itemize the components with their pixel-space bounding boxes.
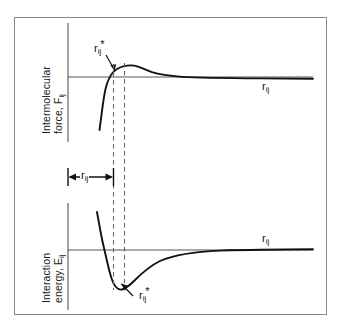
bottom-annotation-star: *: [145, 285, 149, 297]
bottom-plot-y-axis-label: Interaction energy, Eij: [41, 253, 67, 303]
top-plot-x-axis-label: rij: [262, 80, 269, 94]
top-y-label-line1: Intermolecular: [40, 66, 52, 134]
top-annotation-star: *: [100, 38, 104, 50]
bottom-plot-equilibrium-annotation: rij*: [139, 285, 150, 303]
separation-measure-arrow: [68, 168, 114, 186]
top-y-label-subscript: ij: [56, 94, 65, 97]
bottom-plot-group: [68, 203, 313, 310]
separation-measure-label: rij: [80, 169, 89, 183]
figure-container: Intermolecular force, Fij Interaction en…: [0, 0, 339, 333]
force-curve: [100, 65, 314, 130]
top-y-label-line2: force, F: [52, 98, 64, 134]
bottom-y-label-line2: energy, E: [52, 258, 64, 303]
top-x-label-subscript: ij: [266, 85, 270, 94]
top-plot-y-axis-label: Intermolecular force, Fij: [41, 66, 67, 134]
bottom-y-label-line1: Interaction: [40, 253, 52, 303]
bottom-plot-x-axis-label: rij: [262, 232, 269, 246]
force-annotation-arrow: [106, 55, 116, 71]
bottom-y-label-subscript: ij: [56, 255, 65, 258]
bottom-x-label-subscript: ij: [266, 237, 270, 246]
top-plot-equilibrium-annotation: rij*: [94, 38, 105, 56]
energy-curve: [97, 212, 313, 290]
separation-label-subscript: ij: [85, 174, 89, 183]
